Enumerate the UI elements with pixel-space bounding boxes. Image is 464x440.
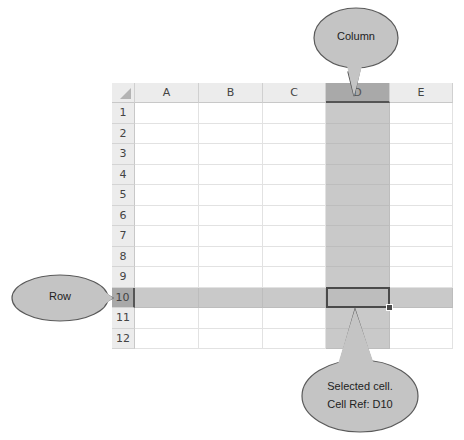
select-all-triangle-icon — [120, 88, 131, 99]
cell-a11[interactable] — [135, 308, 199, 329]
cell-c10[interactable] — [263, 288, 326, 309]
cell-e2[interactable] — [390, 124, 453, 145]
row-header-3[interactable]: 3 — [112, 144, 135, 165]
column-header-c[interactable]: C — [263, 83, 326, 103]
cell-c4[interactable] — [263, 165, 326, 186]
cell-d7[interactable] — [326, 226, 390, 247]
cell-a8[interactable] — [135, 247, 199, 268]
cell-a3[interactable] — [135, 144, 199, 165]
cell-d3[interactable] — [326, 144, 390, 165]
row-header-12[interactable]: 12 — [112, 329, 135, 350]
cell-b2[interactable] — [199, 124, 263, 145]
row-header-7[interactable]: 7 — [112, 226, 135, 247]
cell-b8[interactable] — [199, 247, 263, 268]
cell-e7[interactable] — [390, 226, 453, 247]
row-callout-label: Row — [26, 290, 94, 302]
cell-e6[interactable] — [390, 206, 453, 227]
cell-c9[interactable] — [263, 267, 326, 288]
cell-e9[interactable] — [390, 267, 453, 288]
cell-e3[interactable] — [390, 144, 453, 165]
row-header-9[interactable]: 9 — [112, 267, 135, 288]
cell-c6[interactable] — [263, 206, 326, 227]
cell-e5[interactable] — [390, 185, 453, 206]
cell-b4[interactable] — [199, 165, 263, 186]
cell-b1[interactable] — [199, 103, 263, 124]
column-header-b[interactable]: B — [199, 83, 263, 103]
cell-c7[interactable] — [263, 226, 326, 247]
row-header-10[interactable]: 10 — [112, 288, 135, 309]
cell-b6[interactable] — [199, 206, 263, 227]
row-header-11[interactable]: 11 — [112, 308, 135, 329]
cell-d9[interactable] — [326, 267, 390, 288]
cell-e11[interactable] — [390, 308, 453, 329]
cell-b5[interactable] — [199, 185, 263, 206]
cell-c3[interactable] — [263, 144, 326, 165]
cell-b3[interactable] — [199, 144, 263, 165]
cell-d11[interactable] — [326, 308, 390, 329]
cell-e8[interactable] — [390, 247, 453, 268]
cell-a12[interactable] — [135, 329, 199, 350]
cell-b11[interactable] — [199, 308, 263, 329]
fill-handle[interactable] — [386, 304, 393, 311]
cell-c5[interactable] — [263, 185, 326, 206]
select-all-button[interactable] — [112, 83, 135, 103]
row-header-8[interactable]: 8 — [112, 247, 135, 268]
selected-cell-callout-line2: Cell Ref: D10 — [306, 398, 414, 410]
cell-a4[interactable] — [135, 165, 199, 186]
selected-cell-callout-line1: Selected cell. — [306, 380, 414, 392]
column-callout-label: Column — [320, 30, 392, 42]
cell-c2[interactable] — [263, 124, 326, 145]
cell-a7[interactable] — [135, 226, 199, 247]
cell-e12[interactable] — [390, 329, 453, 350]
cell-c8[interactable] — [263, 247, 326, 268]
cell-b7[interactable] — [199, 226, 263, 247]
cell-b10[interactable] — [199, 288, 263, 309]
cell-e4[interactable] — [390, 165, 453, 186]
cell-e1[interactable] — [390, 103, 453, 124]
column-header-a[interactable]: A — [135, 83, 199, 103]
column-header-e[interactable]: E — [390, 83, 453, 103]
row-header-6[interactable]: 6 — [112, 206, 135, 227]
row-header-1[interactable]: 1 — [112, 103, 135, 124]
cell-d5[interactable] — [326, 185, 390, 206]
cell-a2[interactable] — [135, 124, 199, 145]
cell-d4[interactable] — [326, 165, 390, 186]
cell-b12[interactable] — [199, 329, 263, 350]
cell-a9[interactable] — [135, 267, 199, 288]
cell-e10[interactable] — [390, 288, 453, 309]
row-header-2[interactable]: 2 — [112, 124, 135, 145]
cell-b9[interactable] — [199, 267, 263, 288]
cell-c12[interactable] — [263, 329, 326, 350]
cell-d1[interactable] — [326, 103, 390, 124]
cell-d8[interactable] — [326, 247, 390, 268]
cell-d12[interactable] — [326, 329, 390, 350]
row-header-4[interactable]: 4 — [112, 165, 135, 186]
cell-d2[interactable] — [326, 124, 390, 145]
column-header-d[interactable]: D — [326, 83, 390, 103]
cell-d6[interactable] — [326, 206, 390, 227]
cell-a10[interactable] — [135, 288, 199, 309]
active-cell-border[interactable] — [326, 287, 390, 308]
cell-a6[interactable] — [135, 206, 199, 227]
cell-c11[interactable] — [263, 308, 326, 329]
cell-a1[interactable] — [135, 103, 199, 124]
cell-c1[interactable] — [263, 103, 326, 124]
row-header-5[interactable]: 5 — [112, 185, 135, 206]
cell-a5[interactable] — [135, 185, 199, 206]
